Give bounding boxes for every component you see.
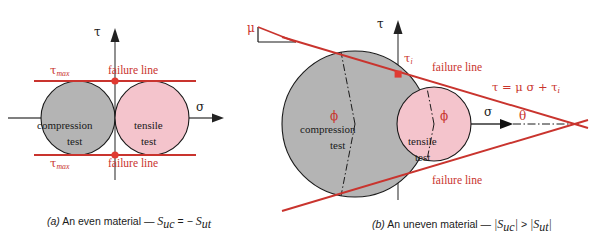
panel-a-failure-line-top-label: failure line [108, 65, 158, 77]
panel-a-caption-mid: = − [178, 215, 193, 227]
panel-b-phi-left-label: ϕ [330, 110, 338, 122]
panel-a-caption-sub1: uc [163, 217, 174, 231]
panel-b-tensile-label-line2: test [415, 152, 430, 163]
panel-a-tensile-label-line2: test [141, 136, 156, 147]
panel-a-caption: (a) An even material — Suc = − Sut [47, 215, 211, 230]
panel-b-caption-bar2: | [549, 217, 552, 231]
panel-b-failure-line-bottom-label: failure line [432, 175, 482, 187]
panel-a-caption-text: An even material — [62, 215, 154, 227]
panel-b-mu-triangle-hypotenuse [258, 27, 296, 42]
panel-b-compression-label-line2: test [330, 140, 345, 151]
panel-a-compression-label-line2: test [67, 136, 82, 147]
panel-a-tau-axis-label: τ [94, 26, 101, 38]
figure-root: τ σ τmax failure line τmax failure line … [0, 0, 596, 245]
panel-b-mu-label: μ [247, 22, 255, 34]
panel-b-compression-label-line1: compression [300, 124, 356, 135]
panel-a-tensile-label-line1: tensile [134, 120, 163, 131]
panel-b-caption-tag: (b) [372, 218, 385, 230]
panel-a-sigma-axis-label: σ [196, 101, 204, 113]
panel-b-caption-s1: |S [494, 217, 503, 231]
panel-b-graphics [258, 20, 588, 211]
panel-b-tau-i-label: τi [404, 53, 413, 66]
panel-b-tau-axis-label: τ [377, 18, 384, 30]
panel-b-theta-label: θ [519, 110, 526, 122]
panel-a-sigma-arrowhead [212, 114, 224, 123]
panel-b-equation-label: τ = μ σ + τi [492, 82, 560, 95]
panel-b-caption-text: An uneven material — [387, 218, 491, 230]
panel-a-caption-sub2: ut [202, 217, 211, 231]
panel-b-caption: (b) An uneven material — |Suc| > |Sut| [372, 218, 552, 233]
panel-b-caption-sub2: ut [539, 220, 548, 234]
panel-b-sigma-arrowhead [500, 119, 513, 129]
panel-b-caption-mid: > [521, 218, 527, 230]
panel-b-phi-right-label: ϕ [440, 110, 448, 122]
panel-b-failure-line-top-label: failure line [432, 62, 482, 74]
panel-b-caption-sub1: uc [503, 220, 514, 234]
panel-b-tensile-label-line1: tensile [408, 136, 437, 147]
panel-b-tau-arrowhead [394, 20, 403, 34]
panel-b-tau-i-point [395, 71, 402, 78]
panel-a-tau-arrowhead [111, 28, 120, 42]
panel-a-failure-line-bottom-label: failure line [108, 158, 158, 170]
panel-b-caption-bar1: | [515, 217, 518, 231]
panel-b-sigma-axis-label: σ [484, 106, 492, 118]
panel-a-tau-max-bottom-label: τmax [50, 158, 69, 171]
panel-a-tau-max-top-label: τmax [50, 65, 69, 78]
panel-a-tangent-point-top [111, 77, 118, 84]
panel-b-caption-s2: |S [530, 217, 539, 231]
panel-a-caption-tag: (a) [47, 215, 60, 227]
panel-a-compression-label-line1: compression [37, 120, 93, 131]
